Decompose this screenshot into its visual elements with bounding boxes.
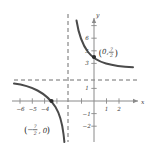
rational-function-plot: x y −6 −5 −4 1 2 6 5 3 1 − [0, 0, 150, 148]
x-tick-label-neg6: −6 [16, 106, 25, 112]
label2-fraction-numerator: 7 [34, 124, 37, 129]
label2-close-paren: ) [46, 125, 50, 135]
y-tick-label-neg1: −1 [83, 111, 91, 117]
label-close-paren: ) [115, 48, 119, 58]
y-tick-label-1: 1 [85, 85, 89, 91]
graph-figure: x y −6 −5 −4 1 2 6 5 3 1 − [0, 0, 150, 148]
x-tick-label-2: 2 [116, 106, 121, 112]
label2-minus-sign: − [27, 126, 33, 134]
point-marker-y-intercept [92, 55, 96, 59]
label-x-value: 0, [102, 48, 109, 56]
point-marker-x-intercept [49, 99, 53, 103]
y-tick-label-3: 3 [85, 60, 89, 66]
label-fraction-denominator: 2 [109, 53, 113, 58]
y-tick-label-neg2: −2 [83, 123, 92, 129]
label-fraction-numerator: 7 [110, 47, 113, 52]
x-tick-label-neg5: −5 [29, 106, 38, 112]
label2-fraction-denominator: 2 [33, 131, 37, 136]
plot-background [0, 0, 150, 148]
x-tick-label-1: 1 [105, 106, 109, 112]
x-tick-label-neg4: −4 [41, 106, 50, 112]
y-tick-label-6: 6 [85, 35, 89, 41]
y-axis-label: y [95, 11, 100, 19]
